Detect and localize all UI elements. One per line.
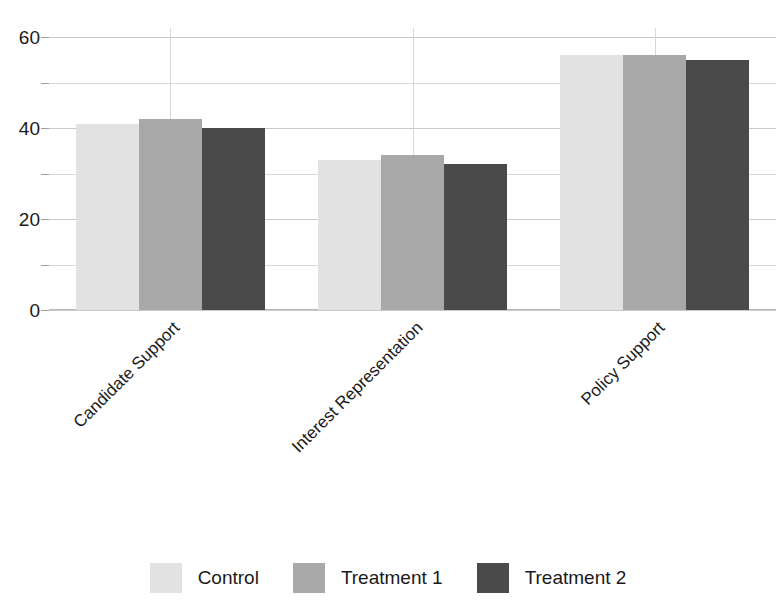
legend-swatch-icon (477, 563, 509, 593)
chart-legend: ControlTreatment 1Treatment 2 (0, 563, 776, 593)
legend-item[interactable]: Control (150, 563, 259, 593)
bar[interactable] (202, 128, 265, 310)
bar[interactable] (686, 60, 749, 310)
bar-group (318, 28, 507, 310)
y-axis-tick-label: 40 (0, 119, 40, 138)
bar-group (76, 28, 265, 310)
y-tick-major (41, 128, 49, 129)
y-tick-major (41, 310, 49, 311)
gridline-major (49, 310, 776, 311)
y-axis-tick-label: 0 (0, 301, 40, 320)
legend-label: Treatment 1 (341, 567, 443, 589)
bar[interactable] (381, 155, 444, 310)
y-tick-minor (41, 174, 49, 175)
bar[interactable] (560, 55, 623, 310)
y-tick-minor (41, 265, 49, 266)
bar-group (560, 28, 749, 310)
legend-swatch-icon (293, 563, 325, 593)
bar-chart: 0204060 Candidate SupportInterest Repres… (0, 0, 776, 608)
legend-swatch-icon (150, 563, 182, 593)
y-tick-minor (41, 83, 49, 84)
y-tick-major (41, 219, 49, 220)
bar[interactable] (623, 55, 686, 310)
y-axis-tick-label: 60 (0, 28, 40, 47)
bar[interactable] (444, 164, 507, 310)
y-axis-tick-label: 20 (0, 210, 40, 229)
plot-area (49, 28, 776, 310)
legend-label: Treatment 2 (525, 567, 627, 589)
legend-label: Control (198, 567, 259, 589)
y-tick-major (41, 37, 49, 38)
legend-item[interactable]: Treatment 1 (293, 563, 443, 593)
legend-item[interactable]: Treatment 2 (477, 563, 627, 593)
bar[interactable] (318, 160, 381, 310)
bar[interactable] (139, 119, 202, 310)
bar[interactable] (76, 124, 139, 310)
